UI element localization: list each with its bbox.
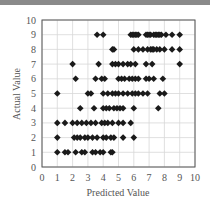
x-tick-label: 6 — [131, 172, 136, 183]
data-point — [72, 149, 79, 156]
y-tick-label: 7 — [31, 59, 36, 70]
data-point — [149, 61, 156, 68]
y-tick-label: 2 — [31, 132, 36, 143]
data-point — [131, 105, 138, 112]
data-point — [92, 120, 99, 127]
y-axis-label: Actual Value — [11, 68, 22, 120]
y-tick-label: 1 — [31, 147, 36, 158]
data-point — [72, 76, 79, 83]
y-tick-label: 3 — [31, 117, 36, 128]
data-point — [160, 76, 167, 83]
x-tick-label: 8 — [162, 172, 167, 183]
data-point — [155, 105, 162, 112]
data-point — [92, 76, 99, 83]
y-tick-label: 4 — [31, 103, 36, 114]
scatter-chart: 012345678910 012345678910 Predicted Valu… — [0, 0, 210, 212]
y-tick-label: 9 — [31, 29, 36, 40]
data-point — [161, 46, 168, 53]
x-tick-label: 1 — [55, 172, 60, 183]
data-point — [127, 120, 134, 127]
x-tick-label: 0 — [40, 172, 45, 183]
x-tick-label: 10 — [190, 172, 200, 183]
x-tick-label: 4 — [101, 172, 106, 183]
y-tick-label: 0 — [31, 162, 36, 173]
x-tick-label: 2 — [70, 172, 75, 183]
data-point — [100, 31, 107, 38]
y-tick-label: 10 — [26, 15, 36, 26]
data-point — [132, 61, 139, 68]
data-point — [94, 31, 101, 38]
data-point — [54, 120, 61, 127]
data-point — [54, 134, 61, 141]
x-tick-label: 3 — [85, 172, 90, 183]
data-point — [109, 120, 116, 127]
data-point — [143, 61, 150, 68]
data-point — [95, 61, 102, 68]
x-tick-label: 7 — [147, 172, 152, 183]
data-point — [120, 134, 127, 141]
data-point — [176, 31, 183, 38]
x-tick-label: 9 — [177, 172, 182, 183]
y-tick-labels: 012345678910 — [26, 15, 36, 173]
data-point — [91, 105, 98, 112]
data-point — [69, 61, 76, 68]
data-point — [62, 120, 69, 127]
data-point — [94, 134, 101, 141]
data-point — [120, 120, 127, 127]
data-point — [169, 46, 176, 53]
data-point — [161, 90, 168, 97]
x-tick-labels: 012345678910 — [40, 172, 201, 183]
x-tick-label: 5 — [116, 172, 121, 183]
x-axis-label: Predicted Value — [87, 187, 150, 198]
y-tick-label: 6 — [31, 73, 36, 84]
data-point — [176, 46, 183, 53]
y-tick-label: 5 — [31, 88, 36, 99]
y-tick-label: 8 — [31, 44, 36, 55]
data-point — [176, 61, 183, 68]
data-point — [131, 134, 138, 141]
data-point — [150, 76, 157, 83]
data-point — [54, 90, 61, 97]
data-point — [77, 105, 84, 112]
data-point — [144, 90, 151, 97]
data-point — [54, 149, 61, 156]
data-point — [169, 31, 176, 38]
data-point — [163, 31, 170, 38]
